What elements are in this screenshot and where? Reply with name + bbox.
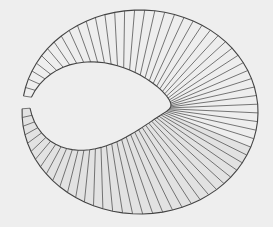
ruling-line [54, 42, 70, 65]
ruling-line [160, 25, 202, 89]
strip-shading [22, 108, 251, 214]
mobius-figure [0, 0, 273, 227]
ruling-line [140, 11, 155, 75]
ruling-line [115, 12, 118, 65]
ruling-line [145, 12, 165, 78]
ruling-line [169, 109, 258, 113]
ruling-line [170, 104, 258, 108]
ruling-line [95, 18, 104, 63]
ruling-line [163, 30, 211, 91]
ruling-line [86, 21, 97, 62]
ruling-line [24, 96, 32, 97]
ruling-line [130, 10, 135, 70]
ruling-line [36, 63, 50, 74]
ruling-line [42, 56, 57, 71]
ruling-line [165, 36, 219, 94]
ruling-line [149, 15, 174, 81]
ruling-line [61, 36, 76, 63]
ruling-line [153, 17, 184, 83]
ruling-line [28, 79, 40, 84]
ruling-line [124, 11, 125, 68]
ruling-line [26, 88, 36, 91]
ruling-line [69, 30, 83, 62]
mobius-strip-drawing [0, 0, 273, 227]
ruling-line [171, 87, 255, 106]
shadow-band [22, 108, 251, 214]
ruling-line [105, 15, 111, 65]
ruling-line [32, 71, 45, 79]
